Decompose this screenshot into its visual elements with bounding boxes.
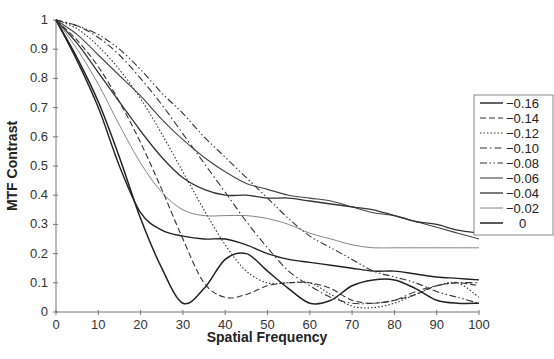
legend-label: −0.10: [506, 141, 539, 156]
y-tick-label: 0.4: [30, 187, 48, 202]
y-tick-label: 0.8: [30, 70, 48, 85]
y-tick-label: 0.6: [30, 129, 48, 144]
legend-label: 0: [506, 216, 526, 231]
x-tick-label: 30: [176, 317, 190, 332]
x-axis-title: Spatial Frequency: [207, 329, 328, 345]
y-tick-label: 0.1: [30, 275, 48, 290]
y-tick-label: 0: [41, 304, 48, 319]
x-tick-label: 70: [345, 317, 359, 332]
legend-label: −0.08: [506, 156, 539, 171]
series-line-2: [56, 20, 479, 308]
x-tick-label: 80: [387, 317, 401, 332]
series-line-0: [56, 20, 479, 280]
y-tick-label: 0.3: [30, 216, 48, 231]
x-tick-label: 10: [91, 317, 105, 332]
x-tick-label: 90: [429, 317, 443, 332]
legend-label: −0.02: [506, 201, 539, 216]
y-tick-label: 0.7: [30, 100, 48, 115]
series-line-7: [56, 20, 479, 248]
legend-label: −0.12: [506, 126, 539, 141]
legend-label: −0.16: [506, 96, 539, 111]
y-tick-label: 0.9: [30, 41, 48, 56]
y-tick-label: 0.2: [30, 246, 48, 261]
plot-area: 00.10.20.30.40.50.60.70.80.91 0102030405…: [30, 12, 490, 332]
legend-label: −0.14: [506, 111, 539, 126]
y-axis-title: MTF Contrast: [4, 121, 20, 212]
series-line-4: [56, 20, 479, 303]
chart: 00.10.20.30.40.50.60.70.80.91 0102030405…: [0, 0, 554, 359]
y-tick-label: 1: [41, 12, 48, 27]
series-line-8: [56, 20, 479, 304]
legend-label: −0.06: [506, 171, 539, 186]
legend-label: −0.04: [506, 186, 539, 201]
series-line-5: [56, 20, 479, 239]
y-ticks: 00.10.20.30.40.50.60.70.80.91: [30, 12, 58, 319]
series-lines: [56, 20, 479, 308]
x-tick-label: 100: [468, 317, 490, 332]
x-tick-label: 0: [52, 317, 59, 332]
legend: −0.16−0.14−0.12−0.10−0.08−0.06−0.04−0.02…: [474, 95, 553, 235]
series-line-6: [56, 20, 479, 233]
x-tick-label: 20: [133, 317, 147, 332]
series-line-1: [56, 20, 479, 303]
y-tick-label: 0.5: [30, 158, 48, 173]
series-line-3: [56, 20, 479, 304]
